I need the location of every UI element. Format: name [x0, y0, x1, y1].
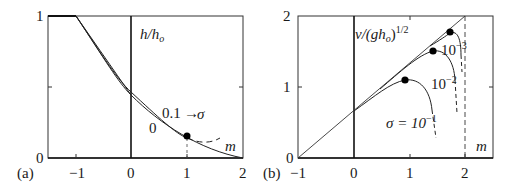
panel-b-label: (b) — [263, 165, 281, 182]
sigma-symbol: σ — [197, 106, 205, 122]
panel-b-ylabel: v/(gho)1/2 — [355, 24, 409, 44]
x-tick-label: 0 — [350, 165, 358, 181]
panel-a-label: (a) — [17, 165, 34, 182]
curve-label-1e-3: 10−3 — [441, 40, 467, 58]
x-tick-label: 1 — [183, 165, 191, 181]
panel-b: v/(gho)1/2 σ = 10−1 10−2 10−3 m 2 1 0 (b… — [263, 8, 493, 182]
curve-label-1e-2: 10−2 — [431, 74, 457, 92]
panel-a-xlabel: m — [225, 138, 236, 154]
y-tick-label: 2 — [283, 8, 291, 24]
x-tick-label: 0 — [127, 165, 135, 181]
panel-b-xlabel: m — [476, 138, 487, 154]
y-tick-label: 1 — [36, 8, 44, 24]
y-tick-label: 0 — [36, 150, 44, 166]
y-tick-label: 0 — [286, 150, 294, 166]
panel-a-ylabel: h/ho — [140, 26, 164, 44]
y-tick-label: 1 — [283, 79, 291, 95]
curve-label-1e-1: σ = 10−1 — [386, 113, 437, 131]
marker-dot — [429, 47, 436, 54]
x-tick-label: 1 — [406, 165, 414, 181]
zero-curve-label: 0 — [149, 120, 157, 136]
x-tick-label: −1 — [290, 165, 306, 181]
x-tick-label: −1 — [69, 165, 85, 181]
curve-sigma-0.1-dashed — [187, 138, 220, 142]
x-tick-label: 2 — [461, 165, 469, 181]
curve-sigma-1e-1 — [354, 80, 432, 111]
marker-dot — [446, 28, 453, 35]
sigma-value-label: 0.1 — [162, 105, 181, 121]
figure: h/ho 0.1 → σ 0 m 1 0 (a) −1 0 1 2 — [0, 0, 510, 186]
curve-sigma-1e-3-dashed — [461, 55, 462, 72]
x-tick-label: 2 — [239, 165, 247, 181]
marker-dot — [401, 76, 408, 83]
panel-a: h/ho 0.1 → σ 0 m 1 0 (a) −1 0 1 2 — [17, 8, 247, 182]
marker-dot — [184, 133, 191, 140]
